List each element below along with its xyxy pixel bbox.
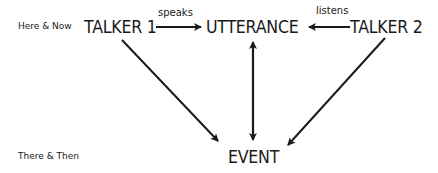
talker2-node: TALKER 2 (350, 18, 423, 36)
speaks-label: speaks (158, 8, 193, 18)
communication-diagram: Here & Now There & Then TALKER 1 UTTERAN… (0, 0, 438, 173)
talker1-to-event-arrow (122, 40, 218, 141)
there-and-then-label: There & Then (18, 152, 79, 161)
talker1-node: TALKER 1 (84, 18, 157, 36)
listens-label: listens (316, 6, 348, 16)
here-and-now-label: Here & Now (18, 22, 72, 31)
utterance-node: UTTERANCE (206, 18, 298, 36)
talker2-to-event-arrow (288, 38, 385, 145)
event-node: EVENT (228, 148, 279, 166)
